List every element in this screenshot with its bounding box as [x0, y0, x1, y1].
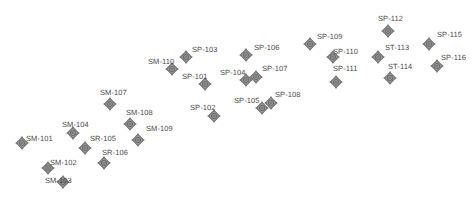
point-label-sm-104: SM-104 [62, 120, 89, 129]
point-label-sp-105: SP-105 [234, 96, 260, 105]
diamond-star-survey-point-icon[interactable] [96, 155, 112, 171]
diamond-star-survey-point-icon[interactable] [421, 36, 437, 52]
point-label-sm-102: SM-102 [50, 158, 77, 167]
point-label-sp-110: SP-110 [333, 47, 358, 56]
diamond-star-survey-point-icon[interactable] [370, 49, 386, 65]
point-label-sm-101: SM-101 [26, 134, 53, 143]
point-label-sp-106: SP-106 [254, 43, 280, 52]
diamond-star-survey-point-icon[interactable] [382, 70, 398, 86]
point-label-sp-108: SP-108 [275, 90, 301, 99]
point-label-sp-115: SP-115 [437, 30, 462, 39]
point-label-sr-106: SR-106 [102, 148, 128, 157]
point-label-sm-108: SM-108 [126, 108, 153, 117]
point-label-sr-105: SR-105 [90, 134, 116, 143]
diamond-star-survey-point-icon[interactable] [130, 132, 146, 148]
diamond-star-survey-point-icon[interactable] [328, 74, 344, 90]
point-label-sm-110: SM-110 [148, 57, 174, 66]
point-label-sm-107: SM-107 [100, 88, 127, 97]
point-label-sp-107: SP-107 [262, 64, 288, 73]
diamond-star-survey-point-icon[interactable] [102, 96, 118, 112]
point-label-sp-111: SP-111 [333, 64, 358, 73]
diamond-star-survey-point-icon[interactable] [122, 116, 138, 132]
point-label-st-114: ST-114 [388, 62, 412, 71]
point-label-sp-112: SP-112 [378, 14, 403, 23]
point-label-sm-103: SM-103 [45, 176, 72, 185]
diamond-star-survey-point-icon[interactable] [380, 23, 396, 39]
point-label-sp-116: SP-116 [441, 53, 466, 62]
point-label-sp-101: SP-101 [182, 72, 208, 81]
point-label-sp-102: SP-102 [190, 103, 216, 112]
point-label-sp-104: SP-104 [220, 68, 246, 77]
point-label-sp-103: SP-103 [192, 45, 218, 54]
survey-point-map: SM-101SM-102SM-103SM-104SM-107SM-108SM-1… [0, 0, 473, 209]
point-label-sm-109: SM-109 [146, 124, 173, 133]
point-label-st-113: ST-113 [385, 43, 409, 52]
diamond-star-survey-point-icon[interactable] [238, 47, 254, 63]
diamond-star-survey-point-icon[interactable] [302, 36, 318, 52]
point-label-sp-109: SP-109 [317, 32, 343, 41]
